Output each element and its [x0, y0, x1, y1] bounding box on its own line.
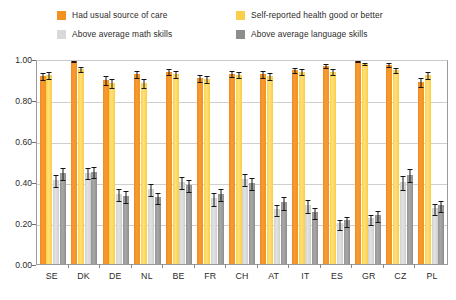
bar-nl-s3[interactable]	[155, 197, 161, 264]
bar-nl-s2[interactable]	[148, 189, 154, 264]
legend-item-math-skills: Above average math skills	[57, 29, 172, 39]
bar-dk-s3[interactable]	[91, 172, 97, 264]
x-axis-label-dk: DK	[68, 271, 100, 291]
bar-es-s1[interactable]	[330, 72, 336, 264]
x-axis-tick-mark	[288, 264, 289, 268]
bar-slot	[312, 61, 318, 264]
error-bar-cap-top	[331, 69, 336, 70]
bar-slot	[71, 61, 77, 264]
bar-slot	[211, 61, 217, 264]
error-bar-cap-bottom	[250, 190, 255, 191]
error-bar-cap-bottom	[439, 212, 444, 213]
bar-at-s1[interactable]	[267, 76, 273, 264]
bar-se-s3[interactable]	[60, 173, 66, 264]
bar-cz-s2[interactable]	[400, 182, 406, 264]
bar-se-s1[interactable]	[46, 75, 52, 264]
bar-ch-s1[interactable]	[236, 75, 242, 264]
bar-ch-s2[interactable]	[242, 179, 248, 264]
bar-group-cz	[384, 61, 416, 264]
bar-slot	[375, 61, 381, 264]
bar-dk-s2[interactable]	[85, 173, 91, 264]
error-bar-cap-top	[313, 208, 318, 209]
error-bar-cap-bottom	[387, 67, 392, 68]
bar-cz-s1[interactable]	[393, 70, 399, 264]
bar-group-se	[37, 61, 69, 264]
bar-slot	[53, 61, 59, 264]
bar-be-s2[interactable]	[179, 182, 185, 264]
error-bar-cap-bottom	[376, 222, 381, 223]
error-bar	[427, 72, 428, 79]
bar-de-s0[interactable]	[103, 80, 109, 264]
bar-be-s0[interactable]	[166, 72, 172, 264]
error-bar-cap-top	[369, 215, 374, 216]
bar-fr-s0[interactable]	[197, 78, 203, 264]
y-axis-tick-label: 0.00	[2, 260, 32, 270]
bar-at-s0[interactable]	[260, 74, 266, 264]
bar-at-s3[interactable]	[281, 202, 287, 264]
bar-fr-s2[interactable]	[211, 198, 217, 264]
bar-es-s0[interactable]	[323, 66, 329, 264]
error-bar-cap-bottom	[337, 230, 342, 231]
x-axis-label-es: ES	[321, 271, 353, 291]
x-axis-label-ch: CH	[226, 271, 258, 291]
bar-slot	[249, 61, 255, 264]
error-bar	[252, 178, 253, 189]
bar-be-s3[interactable]	[186, 185, 192, 264]
error-bar-cap-top	[110, 79, 115, 80]
bar-it-s0[interactable]	[292, 70, 298, 264]
bar-fr-s1[interactable]	[204, 79, 210, 264]
bar-slot	[425, 61, 431, 264]
legend-swatch-usual-care	[57, 11, 66, 20]
bar-pl-s2[interactable]	[432, 208, 438, 264]
x-axis-tick-mark	[320, 264, 321, 268]
bar-group-be	[163, 61, 195, 264]
bar-ch-s3[interactable]	[249, 183, 255, 264]
error-bar-cap-top	[432, 204, 437, 205]
bar-slot	[337, 61, 343, 264]
bar-slot	[109, 61, 115, 264]
bar-dk-s1[interactable]	[78, 69, 84, 264]
bar-it-s1[interactable]	[299, 72, 305, 264]
y-axis-tick-label: 0.40	[2, 178, 32, 188]
bar-cz-s0[interactable]	[386, 65, 392, 264]
bar-de-s3[interactable]	[123, 196, 129, 264]
error-bar-cap-bottom	[394, 73, 399, 74]
error-bar-cap-top	[418, 78, 423, 79]
bar-nl-s0[interactable]	[134, 74, 140, 264]
bar-se-s0[interactable]	[40, 76, 46, 264]
legend-item-self-health: Self-reported health good or better	[236, 10, 383, 20]
error-bar-cap-top	[205, 76, 210, 77]
bar-cz-s3[interactable]	[407, 175, 413, 264]
bar-slot	[40, 61, 46, 264]
bar-pl-s0[interactable]	[418, 82, 424, 264]
x-axis-tick-mark	[351, 264, 352, 268]
error-bar-cap-top	[85, 168, 90, 169]
bar-at-s2[interactable]	[274, 209, 280, 264]
bar-fr-s3[interactable]	[218, 194, 224, 264]
bar-gr-s1[interactable]	[362, 64, 368, 264]
error-bar-cap-top	[92, 167, 97, 168]
bar-dk-s0[interactable]	[71, 61, 77, 264]
x-axis-tick-mark	[99, 264, 100, 268]
bar-de-s2[interactable]	[116, 194, 122, 264]
error-bar-cap-bottom	[418, 87, 423, 88]
bar-pl-s1[interactable]	[425, 75, 431, 264]
error-bar-cap-top	[229, 71, 234, 72]
bar-slot	[438, 61, 444, 264]
bar-gr-s0[interactable]	[355, 61, 361, 264]
bar-slot	[218, 61, 224, 264]
bar-ch-s0[interactable]	[229, 74, 235, 264]
bar-se-s2[interactable]	[53, 180, 59, 264]
bar-it-s2[interactable]	[305, 205, 311, 264]
bar-nl-s1[interactable]	[141, 83, 147, 264]
x-axis-label-fr: FR	[194, 271, 226, 291]
bar-slot	[179, 61, 185, 264]
error-bar	[434, 204, 435, 215]
legend-label-usual-care: Had usual source of care	[72, 10, 168, 20]
error-bar-cap-top	[166, 69, 171, 70]
bar-de-s1[interactable]	[109, 83, 115, 264]
error-bar-cap-bottom	[205, 83, 210, 84]
error-bar	[94, 167, 95, 178]
bar-be-s1[interactable]	[173, 74, 179, 264]
bar-pl-s3[interactable]	[438, 205, 444, 264]
